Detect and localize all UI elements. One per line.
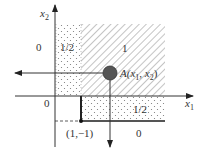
region-label-bottom-outside: 0 bbox=[136, 127, 142, 139]
cdf-diagram: x2 x1 0 1/2 1 0 1/2 0 A(x1, x2) (1,−1) bbox=[0, 0, 204, 157]
region-label-dotted-column: 1/2 bbox=[60, 41, 74, 53]
x2-axis-label: x2 bbox=[39, 7, 49, 22]
region-label-hatched: 1 bbox=[122, 42, 128, 54]
region-label-left-outside: 0 bbox=[36, 41, 42, 53]
dotted-column-region bbox=[56, 24, 81, 96]
point-a-marker bbox=[103, 66, 117, 80]
corner-point-marker bbox=[79, 119, 83, 123]
hatched-region bbox=[81, 24, 165, 96]
region-label-dotted-band: 1/2 bbox=[133, 103, 147, 115]
corner-point-label: (1,−1) bbox=[66, 127, 94, 140]
x1-axis-label: x1 bbox=[184, 97, 194, 112]
dotted-band-region bbox=[81, 96, 165, 121]
region-label-origin: 0 bbox=[44, 97, 50, 109]
